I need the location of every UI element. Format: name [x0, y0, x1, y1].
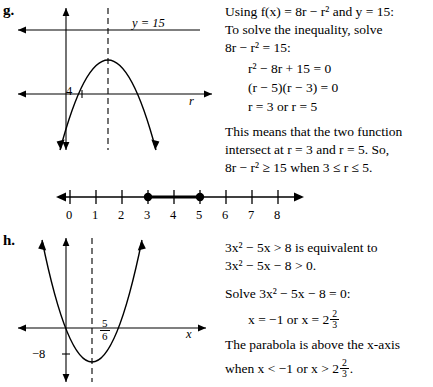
- number-line-label-2: 2: [118, 208, 124, 224]
- h-solution-frac-num: 2: [330, 309, 339, 319]
- y-axis-arrow-down-g: [63, 142, 70, 150]
- parabola-arrow-left-g: [57, 140, 65, 150]
- h-conclusion-prefix-2: when x < −1 or x > 2: [225, 361, 339, 376]
- parabola-graph-h: x −8 5 6: [14, 234, 214, 386]
- h-conclusion-fraction: 23: [340, 358, 349, 379]
- x-axis-arrow-right-h: [198, 325, 206, 332]
- parabola-arrow-right-h: [138, 240, 146, 251]
- g-work-line-1: r² − 8r + 15 = 0: [248, 61, 331, 78]
- number-line-label-5: 5: [196, 208, 202, 224]
- vertex-fraction-label-h: 5 6: [100, 318, 110, 342]
- g-conclusion-line-1: This means that the two function: [225, 124, 402, 141]
- h-conclusion-frac-num: 2: [340, 358, 349, 368]
- g-text-line-1: Using f(x) = 8r − r² and y = 15:: [225, 4, 394, 21]
- parabola-arrow-right-g: [151, 140, 159, 150]
- g-text-line-2: To solve the inequality, solve: [225, 22, 383, 39]
- g-conclusion-line-2: intersect at r = 3 and r = 5. So,: [225, 142, 389, 159]
- number-line-arrow-left: [56, 193, 66, 202]
- h-conclusion-line-2: when x < −1 or x > 223.: [225, 358, 353, 379]
- h-text-line-3: Solve 3x² − 5x − 8 = 0:: [225, 286, 351, 303]
- number-line-point-3: [144, 193, 152, 201]
- number-line-svg: [52, 184, 308, 210]
- worked-solutions-page: g. y = 15 4 r Using f(x) = 8r: [0, 0, 433, 387]
- y-axis-arrow-down-h: [63, 374, 70, 382]
- graph-g-svg: [14, 4, 224, 156]
- vertex-fraction-numerator: 5: [100, 318, 110, 330]
- x-axis-label-h: x: [186, 327, 192, 343]
- g-work-line-3: r = 3 or r = 5: [248, 99, 317, 116]
- g-conclusion-line-3: 8r − r² ≥ 15 when 3 ≤ r ≤ 5.: [225, 160, 373, 177]
- number-line-arrow-right: [294, 193, 304, 202]
- graph-h-svg: [14, 234, 214, 386]
- number-line-g: 0 1 2 3 4 5 6 7 8: [52, 184, 308, 210]
- number-line-label-7: 7: [248, 208, 254, 224]
- h-conclusion-line-1: The parabola is above the x-axis: [225, 337, 400, 354]
- problem-label-g: g.: [3, 2, 14, 19]
- y-axis-arrow-up-g: [63, 8, 70, 16]
- number-line-label-3: 3: [144, 208, 150, 224]
- number-line-label-1: 1: [92, 208, 98, 224]
- h-solution-frac-den: 3: [330, 319, 339, 330]
- number-line-point-5: [196, 193, 204, 201]
- number-line-label-0: 0: [66, 208, 72, 224]
- number-line-label-6: 6: [222, 208, 228, 224]
- parabola-graph-g: y = 15 4 r: [14, 4, 224, 156]
- x-axis-arrow-left-g: [18, 91, 26, 98]
- h-conclusion-frac-den: 3: [340, 368, 349, 379]
- x-axis-label-g: r: [189, 94, 194, 110]
- h-text-line-1: 3x² − 5x > 8 is equivalent to: [225, 240, 377, 257]
- curve-label-y15: y = 15: [132, 16, 165, 32]
- g-work-line-2: (r − 5)(r − 3) = 0: [248, 80, 338, 97]
- h-text-line-2: 3x² − 5x − 8 > 0.: [225, 258, 316, 275]
- h-conclusion-suffix: .: [350, 361, 353, 376]
- y15-arrow-left: [18, 27, 26, 34]
- vertex-fraction-denominator: 6: [100, 330, 110, 343]
- number-line-label-4: 4: [170, 208, 176, 224]
- y-intercept-label-h: −8: [32, 347, 45, 363]
- tick-label-4-g: 4: [66, 84, 72, 100]
- g-text-line-3: 8r − r² = 15:: [225, 40, 291, 57]
- h-solution-line: x = −1 or x = 223: [248, 309, 340, 330]
- parabola-arrow-left-h: [38, 240, 46, 251]
- number-line-label-8: 8: [274, 208, 280, 224]
- y-axis-arrow-up-h: [63, 238, 70, 246]
- h-solution-fraction: 23: [330, 309, 339, 330]
- x-axis-arrow-right-g: [204, 91, 212, 98]
- x-axis-arrow-left-h: [18, 325, 26, 332]
- h-solution-prefix: x = −1 or x = 2: [248, 312, 329, 327]
